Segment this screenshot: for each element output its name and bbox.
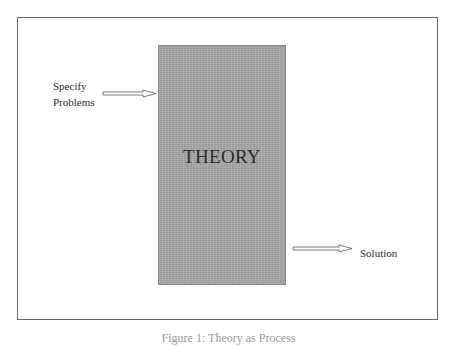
input-label-line-1: Specify (53, 78, 95, 94)
input-label-line-2: Problems (53, 94, 95, 110)
theory-box: THEORY (158, 45, 286, 285)
input-arrow-icon (103, 89, 157, 98)
figure-caption: Figure 1: Theory as Process (0, 331, 457, 346)
output-label: Solution (360, 245, 397, 261)
theory-label: THEORY (159, 146, 285, 168)
input-label: Specify Problems (53, 78, 95, 110)
output-arrow-icon (293, 244, 353, 253)
